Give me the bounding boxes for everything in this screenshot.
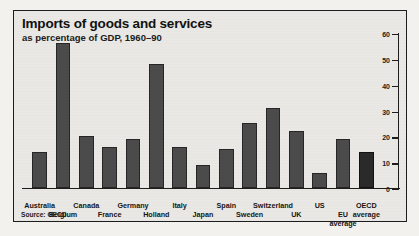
bar — [242, 123, 256, 188]
axis-baseline — [22, 188, 400, 189]
bar — [196, 165, 210, 188]
x-axis-label: Spain — [217, 202, 237, 211]
bar — [359, 152, 373, 188]
bar — [336, 139, 350, 188]
y-axis-tick — [392, 163, 399, 164]
bar — [219, 149, 233, 188]
chart-figure: Imports of goods and services as percent… — [0, 0, 419, 236]
bar — [149, 64, 163, 188]
y-axis-tick-label: 20 — [382, 134, 390, 141]
x-axis-label: OECDaverage — [353, 202, 380, 219]
source-note: Source: OECD — [21, 211, 66, 218]
x-axis-label: France — [98, 211, 122, 220]
y-axis-tick-label: 0 — [386, 186, 390, 193]
bar — [56, 43, 70, 188]
x-axis-label: US — [315, 202, 325, 211]
y-axis-tick — [392, 60, 399, 61]
bar — [102, 147, 116, 188]
y-axis-tick-label: 50 — [382, 56, 390, 63]
y-axis-tick-label: 60 — [382, 31, 390, 38]
bars-group — [28, 33, 378, 188]
y-axis-tick-label: 40 — [382, 82, 390, 89]
x-axis-label: Japan — [193, 211, 214, 220]
y-axis: 0102030405060 — [373, 33, 399, 189]
bar — [289, 131, 303, 188]
x-axis-label: Canada — [73, 202, 99, 211]
y-axis-tick — [392, 112, 399, 113]
y-axis-tick — [392, 34, 399, 35]
y-axis-tick-label: 30 — [382, 108, 390, 115]
x-axis-label: UK — [291, 211, 301, 220]
chart-panel: Imports of goods and services as percent… — [13, 10, 407, 222]
bar — [266, 108, 280, 188]
x-axis-label: Italy — [172, 202, 186, 211]
plot-area — [14, 33, 408, 201]
bar — [312, 173, 326, 189]
x-axis-labels: AustraliaBelgiumCanadaFranceGermanyHolla… — [28, 202, 378, 228]
y-axis-tick — [392, 189, 399, 190]
bar — [32, 152, 46, 188]
y-axis-tick — [392, 137, 399, 138]
chart-title: Imports of goods and services — [22, 16, 212, 31]
y-axis-tick-label: 10 — [382, 160, 390, 167]
x-axis-label: Sweden — [236, 211, 263, 220]
y-axis-tick — [392, 86, 399, 87]
bar — [79, 136, 93, 188]
x-axis-label: Holland — [143, 211, 169, 220]
bar — [172, 147, 186, 188]
bar — [126, 139, 140, 188]
x-axis-label: Switzerland — [253, 202, 293, 211]
